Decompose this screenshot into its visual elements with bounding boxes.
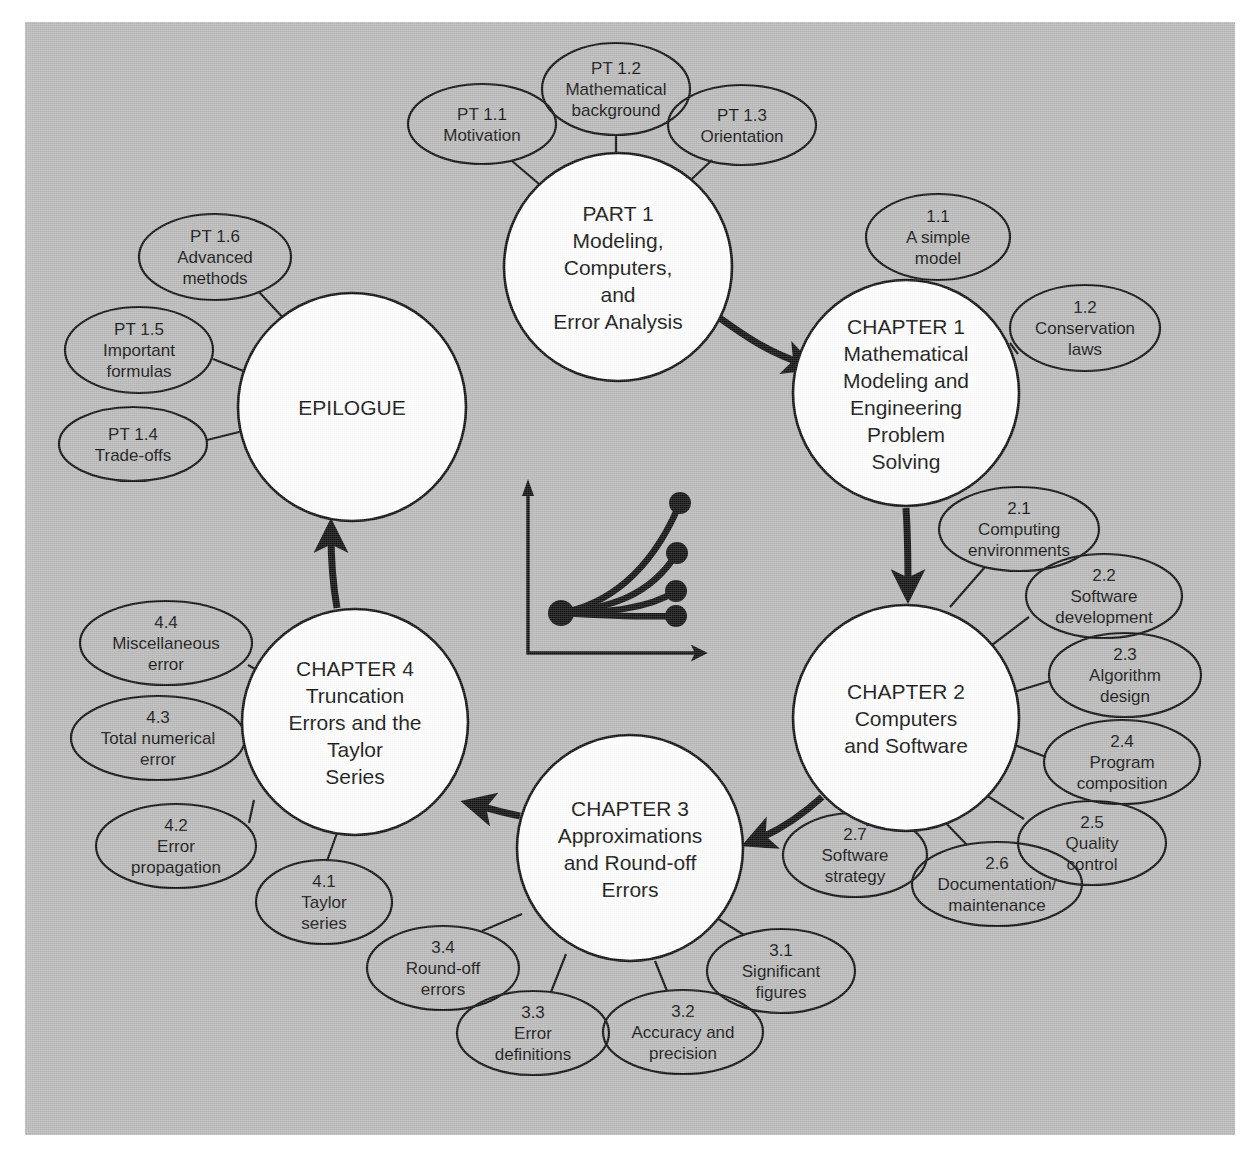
node-label-epilogue: EPILOGUE — [298, 396, 405, 419]
satellite-label-pt-1-4: PT 1.4Trade-offs — [95, 424, 172, 464]
satellite-ellipse[interactable] — [668, 85, 816, 165]
spoke-pt-1-5 — [213, 359, 246, 372]
satellite-label-section-3-2: 3.2Accuracy andprecision — [632, 1002, 735, 1063]
satellite-label-section-4-3-line: 4.3 — [146, 708, 170, 727]
satellite-label-pt-1-2-line: PT 1.2 — [591, 59, 641, 78]
flow-chapter4-to-epilogue — [331, 534, 337, 608]
satellite-label-section-2-7-line: strategy — [825, 867, 886, 886]
satellite-label-pt-1-6-line: Advanced — [177, 248, 253, 267]
spoke-section-3-4 — [482, 914, 522, 931]
satellite-ellipse[interactable] — [59, 407, 207, 481]
node-label-chapter-1-line: Solving — [872, 449, 941, 472]
node-label-chapter-3-line: Errors — [601, 877, 658, 900]
satellite-section-2-2[interactable]: 2.2Softwaredevelopment — [1026, 554, 1182, 638]
satellite-pt-1-4[interactable]: PT 1.4Trade-offs — [59, 407, 207, 481]
satellite-section-1-1[interactable]: 1.1A simplemodel — [866, 194, 1010, 280]
icon-curve-endpoint-4 — [665, 605, 687, 627]
satellite-label-section-2-6-line: maintenance — [948, 896, 1045, 915]
node-chapter-2[interactable]: CHAPTER 2Computersand Software — [793, 605, 1019, 831]
satellite-label-section-4-2: 4.2Errorpropagation — [131, 816, 221, 877]
satellite-label-pt-1-1-line: PT 1.1 — [457, 104, 507, 123]
satellite-pt-1-6[interactable]: PT 1.6Advancedmethods — [139, 214, 291, 300]
satellite-label-section-4-1-line: 4.1 — [312, 872, 336, 891]
node-label-epilogue-line: EPILOGUE — [298, 396, 405, 419]
satellite-label-section-1-1-line: 1.1 — [926, 207, 950, 226]
node-label-chapter-3-line: Approximations — [558, 823, 703, 846]
satellite-section-3-4[interactable]: 3.4Round-offerrors — [367, 926, 519, 1010]
center-icon-layer — [522, 479, 700, 653]
spoke-section-2-2 — [988, 617, 1029, 648]
node-label-part-1-line: Error Analysis — [553, 310, 683, 333]
node-chapter-4[interactable]: CHAPTER 4TruncationErrors and theTaylorS… — [242, 609, 468, 835]
node-label-chapter-2: CHAPTER 2Computersand Software — [844, 680, 968, 757]
satellite-section-4-4[interactable]: 4.4Miscellaneouserror — [80, 601, 252, 685]
satellite-label-section-4-4-line: 4.4 — [154, 613, 178, 632]
node-label-part-1-line: PART 1 — [582, 202, 653, 225]
satellite-section-1-2[interactable]: 1.2Conservationlaws — [1010, 285, 1160, 371]
node-label-chapter-1-line: Mathematical — [844, 341, 969, 364]
satellite-label-section-2-3: 2.3Algorithmdesign — [1089, 645, 1161, 706]
satellite-label-pt-1-6: PT 1.6Advancedmethods — [177, 227, 253, 288]
satellite-label-section-3-2-line: precision — [649, 1044, 717, 1063]
satellite-label-pt-1-4-line: Trade-offs — [95, 445, 172, 464]
satellite-label-section-2-2-line: Software — [1070, 587, 1137, 606]
satellite-label-section-1-1-line: A simple — [906, 228, 970, 247]
node-label-chapter-4-line: Taylor — [327, 738, 383, 761]
satellite-section-2-6[interactable]: 2.6Documentation/maintenance — [912, 842, 1082, 926]
satellite-section-3-2[interactable]: 3.2Accuracy andprecision — [603, 990, 763, 1074]
spoke-section-2-4 — [1012, 744, 1046, 757]
spoke-section-3-3 — [551, 954, 566, 992]
satellite-section-3-1[interactable]: 3.1Significantfigures — [707, 929, 855, 1013]
satellite-label-section-2-4-line: composition — [1077, 774, 1168, 793]
satellite-label-section-2-3-line: 2.3 — [1113, 645, 1137, 664]
node-label-part-1-line: Modeling, — [572, 229, 663, 252]
satellite-section-4-1[interactable]: 4.1Taylorseries — [256, 860, 392, 944]
node-label-chapter-2-line: CHAPTER 2 — [847, 680, 965, 703]
node-chapter-3[interactable]: CHAPTER 3Approximationsand Round-offErro… — [517, 735, 743, 961]
satellite-label-section-3-3: 3.3Errordefinitions — [495, 1003, 572, 1064]
satellite-section-2-5[interactable]: 2.5Qualitycontrol — [1018, 801, 1166, 885]
satellite-section-4-2[interactable]: 4.2Errorpropagation — [96, 804, 256, 888]
satellite-label-section-4-3-line: Total numerical — [101, 729, 215, 748]
satellite-ellipse[interactable] — [408, 84, 556, 164]
satellite-label-section-3-4-line: errors — [421, 980, 465, 999]
satellite-label-section-1-1: 1.1A simplemodel — [906, 207, 970, 268]
node-chapter-1[interactable]: CHAPTER 1MathematicalModeling andEnginee… — [793, 280, 1019, 506]
satellite-pt-1-1[interactable]: PT 1.1Motivation — [408, 84, 556, 164]
satellite-label-section-2-3-line: design — [1100, 687, 1150, 706]
satellite-pt-1-3[interactable]: PT 1.3Orientation — [668, 85, 816, 165]
satellite-pt-1-5[interactable]: PT 1.5Importantformulas — [65, 307, 213, 393]
satellite-label-section-2-3-line: Algorithm — [1089, 666, 1161, 685]
satellite-label-section-4-1: 4.1Taylorseries — [301, 872, 347, 933]
spoke-section-2-3 — [1014, 681, 1050, 692]
satellite-label-section-2-6: 2.6Documentation/maintenance — [937, 854, 1056, 915]
satellite-label-section-2-4-line: 2.4 — [1110, 732, 1134, 751]
satellite-label-section-1-1-line: model — [915, 249, 961, 268]
satellite-label-section-4-3: 4.3Total numericalerror — [101, 708, 215, 769]
satellite-label-pt-1-5: PT 1.5Importantformulas — [103, 320, 175, 381]
satellite-label-section-3-3-line: 3.3 — [521, 1003, 545, 1022]
satellite-label-section-3-4: 3.4Round-offerrors — [406, 938, 481, 999]
icon-curve-endpoint-2 — [666, 542, 688, 564]
satellite-label-pt-1-3: PT 1.3Orientation — [700, 105, 783, 145]
satellite-label-section-3-1-line: figures — [755, 983, 806, 1002]
satellite-section-2-3[interactable]: 2.3Algorithmdesign — [1049, 633, 1201, 717]
satellite-section-4-3[interactable]: 4.3Total numericalerror — [71, 696, 245, 780]
spoke-section-2-1 — [950, 567, 985, 607]
satellite-label-section-4-2-line: Error — [157, 837, 195, 856]
node-label-chapter-4-line: Errors and the — [288, 711, 421, 734]
satellite-section-3-3[interactable]: 3.3Errordefinitions — [457, 991, 609, 1075]
satellite-section-2-4[interactable]: 2.4Programcomposition — [1044, 720, 1200, 804]
satellite-section-2-1[interactable]: 2.1Computingenvironments — [939, 487, 1099, 571]
spoke-section-3-2 — [655, 961, 667, 991]
node-epilogue[interactable]: EPILOGUE — [238, 293, 466, 521]
satellite-label-section-3-4-line: Round-off — [406, 959, 481, 978]
node-part-1[interactable]: PART 1Modeling,Computers,andError Analys… — [504, 153, 732, 381]
node-label-part-1-line: Computers, — [564, 256, 673, 279]
node-label-chapter-2-line: Computers — [855, 707, 958, 730]
satellite-label-section-2-1: 2.1Computingenvironments — [968, 499, 1070, 560]
flow-chapter3-to-chapter4 — [476, 805, 520, 816]
node-label-chapter-2-line: and Software — [844, 734, 968, 757]
satellite-label-pt-1-2-line: Mathematical — [565, 80, 666, 99]
node-circle[interactable] — [517, 735, 743, 961]
